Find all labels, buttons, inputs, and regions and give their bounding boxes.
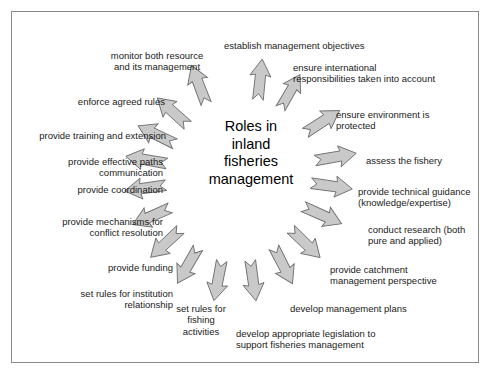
role-label-set-rules-for-institution-relationship: set rules for institution relationship — [48, 288, 173, 311]
role-label-establish-management-objectives: establish management objectives — [224, 40, 394, 51]
role-label-develop-management-plans: develop management plans — [290, 303, 440, 314]
role-label-enforce-agreed-rules: enforce agreed rules — [40, 96, 165, 107]
role-label-provide-mechanisms-for-conflict-resolution: provide mechanisms for conflict resoluti… — [18, 216, 163, 239]
role-label-provide-catchment-management-perspective: provide catchment management perspective — [330, 264, 480, 287]
role-label-set-rules-for-fishing-activities: set rules for fishing activities — [166, 303, 236, 337]
role-label-provide-coordination: provide coordination — [30, 184, 163, 195]
role-label-ensure-international-responsibilities: ensure international responsibilities ta… — [293, 62, 468, 85]
role-label-ensure-environment-protected: ensure environment is protected — [336, 109, 466, 132]
role-label-provide-funding: provide funding — [68, 262, 173, 273]
center-title: Roles in inland fisheries management — [186, 118, 316, 188]
role-label-develop-appropriate-legislation: develop appropriate legislation to suppo… — [236, 328, 421, 351]
diagram-figure: Roles in inland fisheries management est… — [0, 0, 496, 389]
role-label-assess-the-fishery: assess the fishery — [366, 155, 476, 166]
role-label-conduct-research: conduct research (both pure and applied) — [368, 224, 496, 247]
role-label-provide-training-and-extension: provide training and extension — [16, 130, 166, 141]
role-label-provide-technical-guidance: provide technical guidance (knowledge/ex… — [358, 186, 496, 209]
role-label-monitor-both-resource-and-its-management: monitor both resource and its management — [92, 50, 222, 73]
role-label-provide-effective-paths-communication: provide effective paths communication — [18, 156, 163, 179]
